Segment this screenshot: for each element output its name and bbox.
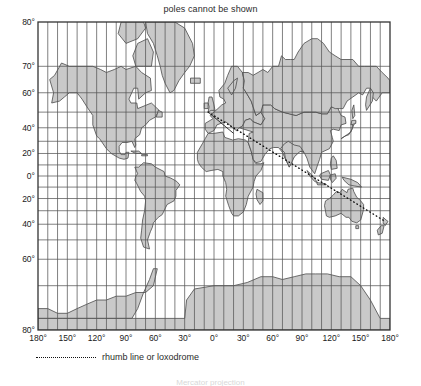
svg-text:90°: 90° xyxy=(120,333,133,343)
svg-text:20°: 20° xyxy=(22,148,35,158)
svg-text:120°: 120° xyxy=(88,333,106,343)
svg-text:60°: 60° xyxy=(266,333,279,343)
svg-text:40°: 40° xyxy=(22,219,35,229)
svg-text:90°: 90° xyxy=(296,333,309,343)
svg-text:30°: 30° xyxy=(237,333,250,343)
svg-text:60°: 60° xyxy=(22,88,35,98)
mercator-map: 80°70°60°40°20°0°20°40°60°80°180°150°120… xyxy=(0,0,421,348)
svg-text:0°: 0° xyxy=(27,171,35,181)
svg-text:180°: 180° xyxy=(381,333,399,343)
svg-text:40°: 40° xyxy=(22,123,35,133)
svg-text:0°: 0° xyxy=(210,333,218,343)
rhumb-line-icon xyxy=(36,357,96,358)
svg-text:80°: 80° xyxy=(22,17,35,27)
figure-footnote: Mercator projection xyxy=(0,378,421,386)
svg-text:180°: 180° xyxy=(29,333,47,343)
svg-text:30°: 30° xyxy=(178,333,191,343)
landmass-iceland xyxy=(191,78,201,83)
landmass-tasmania xyxy=(356,226,359,229)
svg-text:150°: 150° xyxy=(352,333,370,343)
legend-label: rhumb line or loxodrome xyxy=(102,352,199,362)
svg-text:120°: 120° xyxy=(323,333,341,343)
svg-text:150°: 150° xyxy=(59,333,77,343)
map-svg: 80°70°60°40°20°0°20°40°60°80°180°150°120… xyxy=(0,0,421,348)
figure-root: poles cannot be shown 80°70°60°40°20°0°2… xyxy=(0,0,421,386)
svg-text:20°: 20° xyxy=(22,194,35,204)
svg-text:60°: 60° xyxy=(149,333,162,343)
landmass-ireland xyxy=(204,103,208,109)
svg-text:60°: 60° xyxy=(22,254,35,264)
svg-text:70°: 70° xyxy=(22,61,35,71)
landmass-hispaniola xyxy=(142,155,148,156)
legend: rhumb line or loxodrome xyxy=(36,352,199,362)
